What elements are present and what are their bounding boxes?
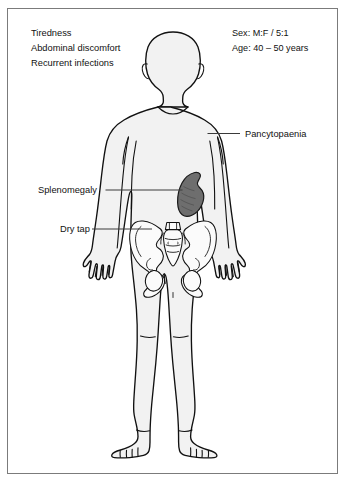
head-outline <box>146 32 201 107</box>
symptom-item-2: Abdominal discomfort <box>31 43 121 53</box>
lumbar-vertebra <box>165 223 180 230</box>
annotation-splenomegaly: Splenomegaly <box>38 185 97 195</box>
symptom-item-3: Recurrent infections <box>31 58 114 68</box>
right-obturator-foramen <box>183 270 200 291</box>
left-obturator-foramen <box>145 270 162 291</box>
annotation-pancytopaenia: Pancytopaenia <box>245 129 307 139</box>
demographic-age-range: Age: 40 – 50 years <box>232 43 309 53</box>
annotation-dry-tap: Dry tap <box>60 224 90 234</box>
anatomy-diagram: Tiredness Abdominal discomfort Recurrent… <box>0 0 346 484</box>
demographics-list: Sex: M:F / 5:1 Age: 40 – 50 years <box>232 28 309 53</box>
symptom-item-1: Tiredness <box>31 28 72 38</box>
demographic-sex-ratio: Sex: M:F / 5:1 <box>232 28 289 38</box>
symptoms-list: Tiredness Abdominal discomfort Recurrent… <box>31 28 121 68</box>
figure-root: Tiredness Abdominal discomfort Recurrent… <box>0 0 346 484</box>
